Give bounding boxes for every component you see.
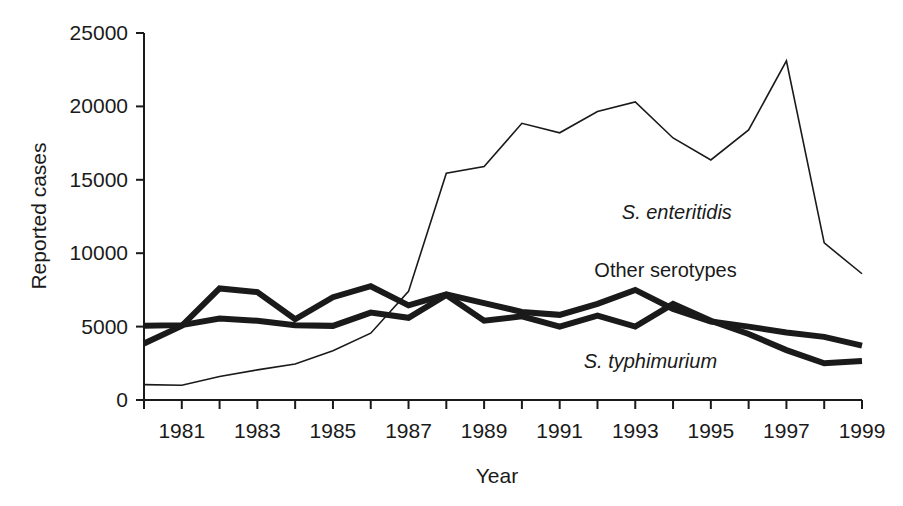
x-tick-label: 1983 [234,419,281,442]
series-paths [144,61,862,385]
x-axis-title: Year [476,464,518,487]
x-tick-marks [144,400,862,409]
y-tick-label: 0 [116,388,128,411]
y-tick-label: 5000 [81,315,128,338]
y-axis-title: Reported cases [27,142,50,289]
x-axis: 1981198319851987198919911993199519971999… [144,400,885,487]
x-tick-label: 1999 [839,419,886,442]
series-label-s-enteritidis: S. enteritidis [622,201,732,223]
y-tick-label: 10000 [70,241,128,264]
x-tick-label: 1993 [612,419,659,442]
chart-figure: 0500010000150002000025000 Reported cases… [0,0,903,506]
x-tick-label: 1991 [536,419,583,442]
y-axis: 0500010000150002000025000 Reported cases [27,21,144,411]
x-tick-label: 1995 [687,419,734,442]
y-tick-marks [136,33,144,400]
x-tick-label: 1989 [461,419,508,442]
x-tick-labels: 1981198319851987198919911993199519971999 [158,419,885,442]
line-chart: 0500010000150002000025000 Reported cases… [0,0,903,506]
y-tick-label: 25000 [70,21,128,44]
x-tick-label: 1987 [385,419,432,442]
y-tick-label: 20000 [70,94,128,117]
x-tick-label: 1997 [763,419,810,442]
series-label-other-serotypes: Other serotypes [594,259,736,281]
x-tick-label: 1985 [310,419,357,442]
y-tick-label: 15000 [70,168,128,191]
x-tick-label: 1981 [158,419,205,442]
y-tick-labels: 0500010000150002000025000 [70,21,128,411]
series-label-s-typhimurium: S. typhimurium [584,350,717,372]
series-annotations: S. enteritidisOther serotypesS. typhimur… [584,201,737,371]
